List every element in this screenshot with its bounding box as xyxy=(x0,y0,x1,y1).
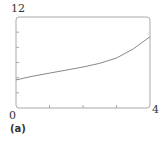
data-line xyxy=(16,37,150,80)
origin-label: 0 xyxy=(9,110,16,121)
y-max-label: 12 xyxy=(11,3,25,14)
plot-frame xyxy=(16,17,150,108)
x-max-label: 4 xyxy=(152,104,159,115)
subfigure-label: (a) xyxy=(10,123,26,134)
